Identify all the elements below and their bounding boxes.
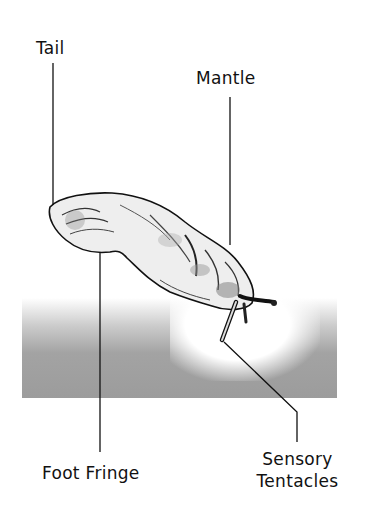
label-mantle: Mantle bbox=[196, 68, 256, 88]
slug-body bbox=[49, 193, 253, 310]
label-tail: Tail bbox=[36, 38, 65, 58]
label-sensory-tentacles-line2: Tentacles bbox=[245, 470, 350, 492]
label-sensory-tentacles: Sensory Tentacles bbox=[245, 448, 350, 492]
sensory-tentacles-leader-line bbox=[224, 342, 297, 442]
label-sensory-tentacles-line1: Sensory bbox=[245, 448, 350, 470]
label-foot-fringe: Foot Fringe bbox=[42, 463, 140, 483]
